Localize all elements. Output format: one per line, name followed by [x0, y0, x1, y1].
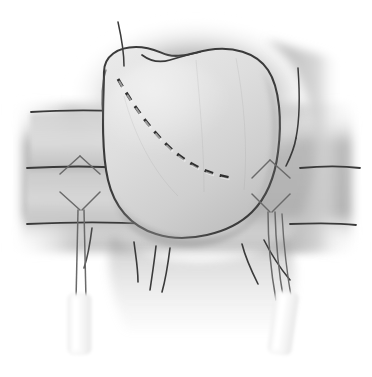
suture-clamp-left[interactable]	[68, 294, 91, 354]
illustration-canvas	[0, 0, 372, 377]
clamp-highlight	[73, 298, 79, 350]
flap-highlight	[106, 60, 230, 164]
surgical-illustration-figure: Surgical flap with dashed incision line …	[0, 0, 372, 377]
tissue-flap	[102, 47, 280, 247]
clamp-body	[68, 294, 91, 354]
